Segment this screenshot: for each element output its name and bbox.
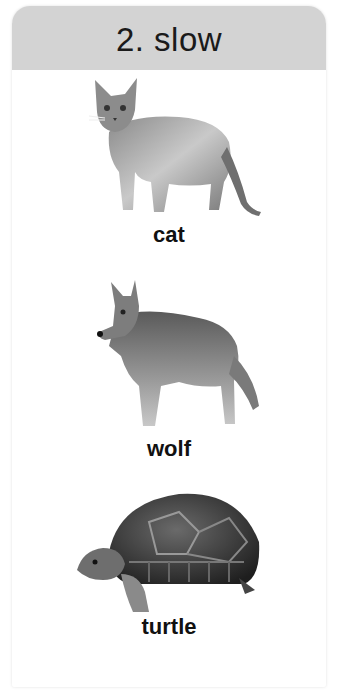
card-header: 2. slow xyxy=(12,6,326,70)
turtle-illustration-icon xyxy=(69,482,269,614)
vocabulary-card: 2. slow cat xyxy=(12,6,326,687)
item-turtle: turtle xyxy=(12,482,326,640)
item-cat: cat xyxy=(12,72,326,248)
label-cat: cat xyxy=(12,222,326,248)
label-wolf: wolf xyxy=(12,436,326,462)
label-turtle: turtle xyxy=(12,614,326,640)
cat-illustration-icon xyxy=(69,72,269,222)
item-wolf: wolf xyxy=(12,276,326,462)
card-title: 2. slow xyxy=(116,21,222,59)
wolf-illustration-icon xyxy=(69,276,269,436)
